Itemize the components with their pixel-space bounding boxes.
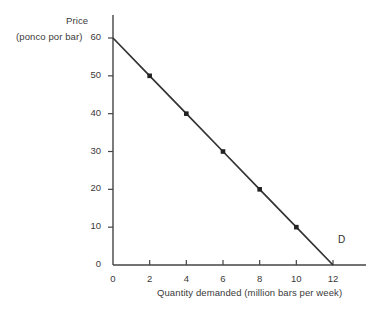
data-point-marker — [294, 225, 299, 230]
demand-curve-chart: Price (ponco por bar) Quantity demanded … — [0, 0, 377, 309]
data-series-group — [113, 38, 333, 265]
x-axis-tick-label: 12 — [323, 273, 343, 284]
y-axis-tick-label: 10 — [79, 220, 101, 231]
y-axis-tick-label: 30 — [79, 145, 101, 156]
x-axis-tick-label: 8 — [250, 273, 270, 284]
y-axis-tick-label: 0 — [79, 258, 101, 269]
demand-curve-label: D — [338, 234, 345, 245]
y-axis-tick-label: 60 — [79, 31, 101, 42]
data-point-marker — [184, 111, 189, 116]
axes — [113, 15, 366, 265]
x-axis-tick-label: 4 — [176, 273, 196, 284]
y-axis-tick-label: 20 — [79, 182, 101, 193]
data-point-marker — [221, 149, 226, 154]
x-axis-tick-label: 6 — [213, 273, 233, 284]
plot-area — [0, 0, 377, 309]
y-axis-ticks — [108, 38, 113, 227]
y-axis-tick-label: 40 — [79, 107, 101, 118]
x-axis-tick-label: 2 — [140, 273, 160, 284]
x-axis-ticks — [150, 260, 333, 265]
x-axis-tick-label: 0 — [103, 273, 123, 284]
data-point-marker — [147, 74, 152, 79]
data-point-marker — [257, 187, 262, 192]
y-axis-tick-label: 50 — [79, 69, 101, 80]
x-axis-tick-label: 10 — [286, 273, 306, 284]
